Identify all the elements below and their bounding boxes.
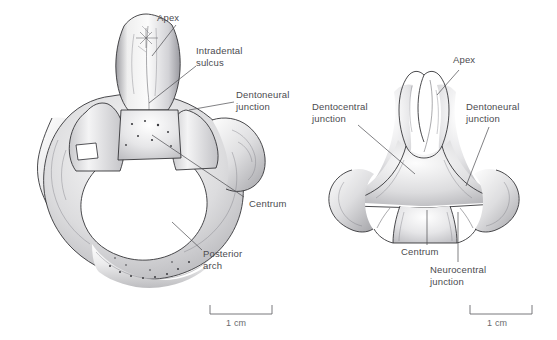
label-apex-left: Apex [157,12,179,24]
scale-caption-left: 1 cm [226,318,246,328]
label-apex-right: Apex [453,54,475,66]
right-specimen-illustration [329,71,519,243]
label-neurocentral-junction: Neurocentral junction [430,264,486,287]
left-scale-bar [210,305,272,314]
figure-canvas [0,0,557,340]
label-dentoneural-junction-right: Dentoneural junction [466,101,519,124]
anatomical-figure: Apex Intradental sulcus Dentoneural junc… [0,0,557,340]
label-dentocentral-junction: Dentocentral junction [312,101,368,124]
label-posterior-arch: Posterior arch [203,248,242,271]
label-intradental-sulcus: Intradental sulcus [196,45,243,68]
label-dentoneural-junction-left: Dentoneural junction [236,89,289,112]
right-scale-bar [470,305,532,314]
label-centrum-right: Centrum [401,246,438,258]
label-centrum-left: Centrum [249,198,286,210]
scale-caption-right: 1 cm [487,318,507,328]
